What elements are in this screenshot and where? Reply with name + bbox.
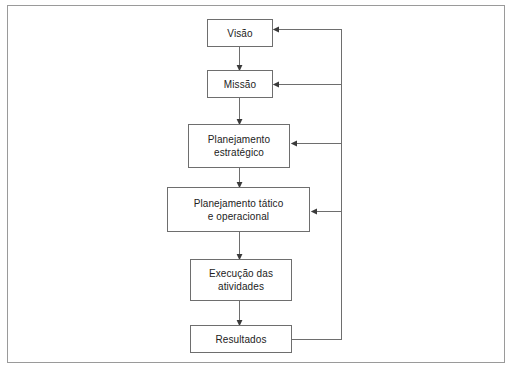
feedback-trunk [292,30,342,340]
node-execucao-atividades: Execução das atividades [190,259,292,301]
node-visao-label: Visão [223,27,256,40]
node-planejamento-tatico-operacional-label: Planejamento tático e operacional [190,197,288,223]
node-resultados: Resultados [190,325,292,353]
node-missao-label: Missão [220,78,260,91]
node-execucao-atividades-label: Execução das atividades [205,267,277,293]
diagram-canvas: Visão Missão Planejamento estratégico Pl… [0,0,512,374]
node-planejamento-tatico-operacional: Planejamento tático e operacional [167,187,310,232]
node-planejamento-estrategico: Planejamento estratégico [188,124,290,168]
node-resultados-label: Resultados [211,333,270,346]
node-planejamento-estrategico-label: Planejamento estratégico [204,133,274,159]
node-visao: Visão [207,19,273,47]
node-missao: Missão [207,70,273,98]
